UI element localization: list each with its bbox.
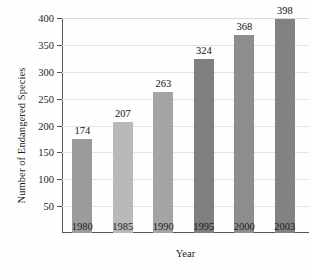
bar-value-label: 324 (196, 45, 212, 56)
y-axis-tick-label: 150 (38, 147, 54, 158)
bar-value-label: 174 (74, 125, 90, 136)
bar (275, 19, 295, 233)
bar (153, 92, 173, 233)
bar-chart: Number of Endangered Species 50100150200… (0, 0, 312, 276)
bar-group: 368 (234, 18, 254, 233)
y-axis-tick-label: 350 (38, 39, 54, 50)
bar-group: 263 (153, 18, 173, 233)
bar-group: 207 (113, 18, 133, 233)
y-axis-tick-label: 400 (38, 13, 54, 24)
y-axis-title: Number of Endangered Species (16, 31, 27, 241)
bar-group: 174 (72, 18, 92, 233)
x-axis-tick-label: 1980 (72, 221, 93, 232)
bar-value-label: 398 (277, 5, 293, 16)
x-axis-tick-label: 2003 (274, 221, 295, 232)
plot-area: 50100150200250300350400 1742072633243683… (62, 18, 305, 233)
y-axis-tick-label: 100 (38, 174, 54, 185)
bar-group: 324 (194, 18, 214, 233)
bar (113, 122, 133, 233)
bar-value-label: 263 (155, 78, 171, 89)
bar-group: 398 (275, 18, 295, 233)
y-axis-tick-label: 50 (44, 201, 55, 212)
bar-value-label: 368 (236, 21, 252, 32)
y-axis-tick-label: 250 (38, 93, 54, 104)
x-axis-tick-label: 2000 (234, 221, 255, 232)
y-axis-tick-label: 200 (38, 120, 54, 131)
x-axis-tick-label: 1995 (193, 221, 214, 232)
bar (234, 35, 254, 233)
y-axis-tick-label: 300 (38, 66, 54, 77)
x-axis-tick-label: 1985 (112, 221, 133, 232)
bars-layer: 174207263324368398 (62, 18, 305, 233)
x-axis-tick-label: 1990 (153, 221, 174, 232)
bar-value-label: 207 (115, 108, 131, 119)
x-axis-title: Year (62, 248, 309, 259)
bar (72, 139, 92, 233)
bar (194, 59, 214, 233)
